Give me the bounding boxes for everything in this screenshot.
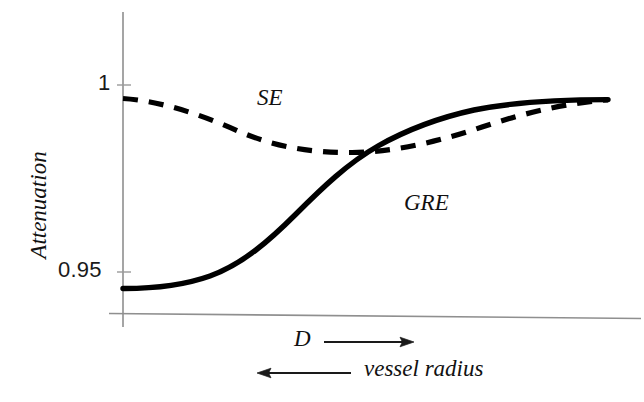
series-se-curve — [123, 99, 608, 153]
y-tick-label-1: 1 — [98, 72, 110, 94]
y-tick-label-0-95: 0.95 — [58, 259, 102, 281]
d-arrow — [324, 337, 414, 347]
attenuation-chart-figure: Attenuation 1 0.95 SE GRE D vessel radiu… — [0, 0, 644, 402]
chart-canvas — [0, 0, 644, 402]
vessel-radius-arrow — [257, 368, 351, 378]
gre-curve-label: GRE — [404, 191, 449, 214]
y-axis-title: Attenuation — [27, 140, 50, 270]
se-curve-label: SE — [257, 86, 283, 109]
x-axis-label-vessel-radius: vessel radius — [364, 357, 483, 380]
series-gre-curve — [123, 100, 608, 289]
x-axis-label-d: D — [294, 327, 311, 350]
x-axis-line — [109, 314, 641, 319]
